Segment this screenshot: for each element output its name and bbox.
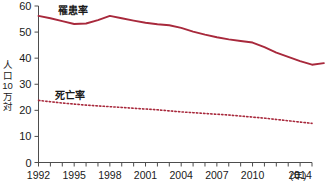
y-axis-ticks: 0102030405060 <box>19 0 38 169</box>
x-tick-label: 2001 <box>134 169 158 181</box>
chart-container: 人 口 10 万 対 0102030405060 199219951998200… <box>0 0 333 182</box>
y-tick-label: 10 <box>19 130 31 142</box>
x-tick-label: 2010 <box>241 169 265 181</box>
x-tick-label: 2004 <box>170 169 194 181</box>
x-axis-unit-label: (年) <box>290 170 306 181</box>
line-chart: 0102030405060 19921995199820012004200720… <box>0 0 333 182</box>
series-label-incidence: 罹患率 <box>58 4 88 16</box>
y-tick-label: 30 <box>19 78 31 90</box>
y-tick-label: 60 <box>19 0 31 12</box>
x-axis-ticks: 19921995199820012004200720102014 <box>27 163 312 181</box>
x-tick-label: 2007 <box>205 169 229 181</box>
x-tick-label: 1998 <box>98 169 122 181</box>
data-series-group <box>39 16 324 123</box>
x-tick-label: 1992 <box>27 169 51 181</box>
series-line-incidence <box>39 16 324 65</box>
y-tick-label: 0 <box>25 157 31 169</box>
x-tick-label: 1995 <box>62 169 86 181</box>
y-tick-label: 50 <box>19 26 31 38</box>
series-label-mortality: 死亡率 <box>55 89 85 101</box>
series-line-mortality <box>39 100 313 123</box>
y-tick-label: 20 <box>19 104 31 116</box>
y-tick-label: 40 <box>19 52 31 64</box>
